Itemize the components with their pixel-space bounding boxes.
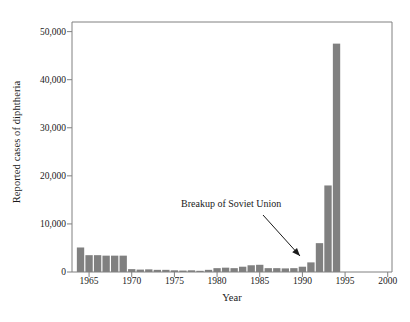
x-tick-label-1965: 1965 (66, 276, 112, 287)
annotation-arrow-line-0 (263, 215, 300, 256)
y-tick-label-40,000: 40,000 (22, 75, 66, 85)
x-tick-label-1980: 1980 (194, 276, 240, 287)
bar-1991 (307, 262, 314, 272)
y-tick-label-20,000: 20,000 (22, 171, 66, 181)
x-tick-label-2000: 2000 (365, 276, 410, 287)
y-axis-title: Reported cases of diphtheria (10, 12, 24, 272)
bar-1993 (324, 185, 331, 272)
bar-1973 (154, 270, 161, 272)
bar-1980 (213, 268, 220, 272)
bar-1987 (273, 268, 280, 272)
bar-1977 (188, 270, 195, 272)
bar-1983 (239, 267, 246, 272)
annotation-breakup-of-soviet-union: Breakup of Soviet Union (181, 198, 281, 210)
bar-1972 (145, 269, 152, 272)
bar-1982 (230, 268, 237, 272)
bar-1966 (94, 255, 101, 272)
bar-1969 (120, 256, 127, 272)
x-tick-label-1975: 1975 (151, 276, 197, 287)
x-tick-label-1985: 1985 (237, 276, 283, 287)
bar-1976 (179, 271, 186, 272)
bar-1967 (102, 256, 109, 272)
bar-1968 (111, 256, 118, 272)
axis-frame (72, 22, 392, 272)
bar-1979 (205, 270, 212, 272)
bar-1994 (333, 44, 340, 272)
bar-1970 (128, 269, 135, 272)
bar-1981 (222, 268, 229, 272)
bar-1975 (171, 270, 178, 272)
bar-1990 (299, 267, 306, 272)
x-tick-label-1970: 1970 (109, 276, 155, 287)
bar-1971 (137, 270, 144, 272)
y-tick-label-10,000: 10,000 (22, 219, 66, 229)
x-tick-label-1990: 1990 (279, 276, 325, 287)
bar-1984 (248, 265, 255, 272)
x-axis-title: Year (72, 292, 392, 304)
bar-1989 (290, 268, 297, 272)
bar-1964 (77, 247, 84, 272)
bar-1974 (162, 270, 169, 272)
diphtheria-bar-chart: Reported cases of diphtheria Year Breaku… (0, 0, 410, 322)
y-tick-label-0: 0 (22, 267, 66, 277)
bar-1988 (282, 268, 289, 272)
bar-1986 (265, 268, 272, 272)
y-tick-label-30,000: 30,000 (22, 123, 66, 133)
bar-1965 (85, 255, 92, 272)
bar-1985 (256, 265, 263, 272)
bar-1978 (196, 271, 203, 272)
axes-group (67, 22, 392, 277)
bar-1992 (316, 243, 323, 272)
bars-group (77, 44, 340, 272)
annotation-arrow (263, 215, 300, 256)
y-tick-label-50,000: 50,000 (22, 27, 66, 37)
annotation-arrow-head-0 (292, 248, 300, 256)
x-tick-label-1995: 1995 (322, 276, 368, 287)
